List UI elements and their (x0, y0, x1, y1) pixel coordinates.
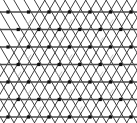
lattice-vertex (119, 63, 122, 66)
lattice-vertex (88, 10, 91, 13)
lattice-vertex (37, 28, 40, 31)
lattice-vertex (37, 98, 40, 101)
lattice-vertex (58, 98, 61, 101)
lattice-vertex (88, 115, 91, 118)
lattice-vertex (58, 63, 61, 66)
lattice-vertex (27, 115, 30, 118)
lattice-vertex (78, 28, 81, 31)
lattice-vertex (109, 115, 112, 118)
lattice-vertex (109, 10, 112, 13)
lattice-vertex (109, 80, 112, 83)
lattice-vertex (129, 115, 132, 118)
lattice-vertex (17, 28, 20, 31)
lattice-vertex (68, 80, 71, 83)
lattice-vertex (68, 10, 71, 13)
lattice-vertex (99, 28, 102, 31)
lattice-vertex (6, 10, 9, 13)
lattice-vertex (37, 63, 40, 66)
lattice-vertex (99, 98, 102, 101)
lattice-vertex (58, 28, 61, 31)
lattice-vertex (47, 10, 50, 13)
lattice-vertex (17, 98, 20, 101)
lattice-vertex (109, 45, 112, 48)
lattice-vertex (129, 45, 132, 48)
lattice-vertex (129, 10, 132, 13)
lattice-vertex (78, 98, 81, 101)
lattice-vertex (27, 45, 30, 48)
lattice-vertex (68, 115, 71, 118)
lattice-vertex (47, 80, 50, 83)
lattice-vertex (68, 45, 71, 48)
lattice-vertex (119, 98, 122, 101)
lattice-vertex (119, 28, 122, 31)
lattice-figure: Triangular lattice diagram (0, 0, 137, 123)
lattice-vertex (27, 80, 30, 83)
lattice-vertex (17, 63, 20, 66)
lattice-svg (0, 0, 137, 123)
lattice-vertex (88, 80, 91, 83)
lattice-vertex (6, 115, 9, 118)
lattice-vertex (47, 45, 50, 48)
lattice-vertex (47, 115, 50, 118)
lattice-vertex (6, 45, 9, 48)
lattice-vertex (27, 10, 30, 13)
lattice-vertex (129, 80, 132, 83)
lattice-vertex (99, 63, 102, 66)
lattice-vertex (78, 63, 81, 66)
lattice-vertex (88, 45, 91, 48)
lattice-vertex (6, 80, 9, 83)
